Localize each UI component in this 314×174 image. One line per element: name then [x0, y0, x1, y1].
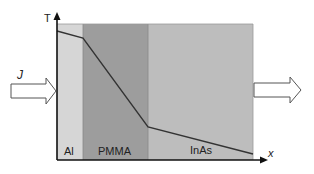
flux-label: J — [16, 68, 24, 82]
layer-label-inas: InAs — [190, 144, 213, 156]
thermal-diagram: T x Al PMMA InAs J — [0, 0, 314, 174]
y-axis-label: T — [44, 12, 51, 24]
x-axis-arrow-icon — [260, 157, 268, 164]
layer-inas — [148, 24, 253, 160]
layer-label-pmma: PMMA — [98, 145, 132, 157]
layer-al — [57, 24, 83, 160]
layer-pmma — [83, 24, 148, 160]
x-axis-label: x — [267, 147, 274, 159]
y-axis-arrow-icon — [54, 12, 61, 20]
layer-label-al: Al — [64, 145, 74, 157]
heat-flux-out-arrow-icon — [254, 77, 301, 103]
